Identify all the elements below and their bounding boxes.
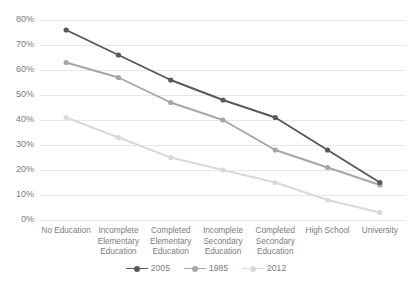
legend-label: 1985 xyxy=(209,264,228,273)
data-point-1985-2 xyxy=(168,100,173,105)
y-tick-label: 20% xyxy=(0,165,34,174)
data-point-2005-1 xyxy=(116,52,121,57)
data-point-1985-3 xyxy=(220,117,225,122)
legend-item-1985[interactable]: 1985 xyxy=(184,264,228,273)
x-tick-label-line: Education xyxy=(90,247,146,258)
y-tick-label: 30% xyxy=(0,140,34,149)
y-tick-label: 70% xyxy=(0,40,34,49)
x-tick-label-line: Incomplete xyxy=(195,226,251,237)
data-point-2012-6 xyxy=(377,210,382,215)
data-point-2012-4 xyxy=(273,180,278,185)
data-point-1985-5 xyxy=(325,165,330,170)
legend-marker xyxy=(250,266,256,272)
legend-label: 2005 xyxy=(151,264,170,273)
legend-marker xyxy=(134,266,140,272)
data-point-2012-1 xyxy=(116,135,121,140)
data-point-1985-1 xyxy=(116,75,121,80)
series-line-1985 xyxy=(66,63,380,186)
chart-legend: 200519852012 xyxy=(0,264,412,273)
legend-label: 2012 xyxy=(267,264,286,273)
series-line-2012 xyxy=(66,118,380,213)
x-tick-label-4: CompletedSecondaryEducation xyxy=(247,226,303,258)
series-line-2005 xyxy=(66,30,380,183)
legend-swatch-icon xyxy=(126,265,148,273)
y-tick-label: 10% xyxy=(0,190,34,199)
data-point-2012-2 xyxy=(168,155,173,160)
x-tick-label-5: High School xyxy=(299,226,355,237)
data-point-2005-0 xyxy=(64,27,69,32)
y-tick-label: 0% xyxy=(0,215,34,224)
x-tick-label-line: Elementary xyxy=(90,237,146,248)
data-point-2012-0 xyxy=(64,115,69,120)
series-layer xyxy=(64,27,383,215)
data-point-1985-4 xyxy=(273,147,278,152)
data-point-2005-5 xyxy=(325,147,330,152)
data-point-2005-6 xyxy=(377,180,382,185)
data-point-2005-2 xyxy=(168,77,173,82)
y-tick-label: 60% xyxy=(0,65,34,74)
x-tick-label-3: IncompleteSecondaryEducation xyxy=(195,226,251,258)
data-point-2005-3 xyxy=(220,97,225,102)
y-tick-label: 80% xyxy=(0,15,34,24)
x-tick-label-line: No Education xyxy=(38,226,94,237)
x-tick-label-line: University xyxy=(352,226,408,237)
legend-swatch-icon xyxy=(242,265,264,273)
legend-item-2005[interactable]: 2005 xyxy=(126,264,170,273)
x-tick-label-line: Incomplete xyxy=(90,226,146,237)
x-tick-label-6: University xyxy=(352,226,408,237)
legend-marker xyxy=(192,266,198,272)
x-tick-label-line: Completed xyxy=(143,226,199,237)
x-tick-label-line: Elementary xyxy=(143,237,199,248)
data-point-2012-5 xyxy=(325,197,330,202)
data-point-1985-0 xyxy=(64,60,69,65)
x-tick-label-line: Education xyxy=(143,247,199,258)
y-tick-label: 40% xyxy=(0,115,34,124)
y-tick-label: 50% xyxy=(0,90,34,99)
legend-swatch-icon xyxy=(184,265,206,273)
line-chart: 80%70%60%50%40%30%20%10%0% No EducationI… xyxy=(0,0,412,290)
x-tick-label-2: CompletedElementaryEducation xyxy=(143,226,199,258)
x-tick-label-line: Completed xyxy=(247,226,303,237)
x-tick-label-line: High School xyxy=(299,226,355,237)
x-tick-label-line: Education xyxy=(247,247,303,258)
x-tick-label-line: Secondary xyxy=(247,237,303,248)
x-tick-label-0: No Education xyxy=(38,226,94,237)
data-point-2012-3 xyxy=(220,167,225,172)
x-tick-label-1: IncompleteElementaryEducation xyxy=(90,226,146,258)
data-point-2005-4 xyxy=(273,115,278,120)
x-tick-label-line: Secondary xyxy=(195,237,251,248)
legend-item-2012[interactable]: 2012 xyxy=(242,264,286,273)
x-tick-label-line: Education xyxy=(195,247,251,258)
